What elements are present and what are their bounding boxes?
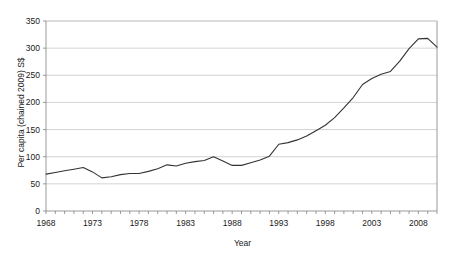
y-tick-label: 300 xyxy=(26,43,40,53)
x-tick-marks xyxy=(46,211,437,214)
y-tick-labels: 050100150200250300350 xyxy=(26,16,40,216)
y-tick-label: 0 xyxy=(35,206,40,216)
x-tick-label: 1983 xyxy=(176,218,195,228)
x-tick-label: 2003 xyxy=(362,218,381,228)
axis-frame xyxy=(46,21,437,211)
x-tick-label: 1968 xyxy=(37,218,56,228)
y-tick-label: 200 xyxy=(26,97,40,107)
x-tick-label: 2008 xyxy=(409,218,428,228)
chart-container: Per capita (chained 2009) S$ Year 050100… xyxy=(0,0,453,261)
plot-area: 050100150200250300350 196819731978198319… xyxy=(0,0,453,261)
x-tick-label: 1998 xyxy=(316,218,335,228)
y-tick-label: 100 xyxy=(26,152,40,162)
x-tick-labels: 196819731978198319881993199820032008 xyxy=(37,218,429,228)
x-tick-label: 1978 xyxy=(130,218,149,228)
x-tick-label: 1993 xyxy=(269,218,288,228)
x-tick-label: 1973 xyxy=(83,218,102,228)
x-tick-label: 1988 xyxy=(223,218,242,228)
y-tick-label: 150 xyxy=(26,125,40,135)
y-tick-label: 50 xyxy=(31,179,41,189)
y-tick-marks xyxy=(43,21,46,211)
y-tick-label: 250 xyxy=(26,70,40,80)
y-tick-label: 350 xyxy=(26,16,40,26)
gridlines xyxy=(46,21,437,184)
